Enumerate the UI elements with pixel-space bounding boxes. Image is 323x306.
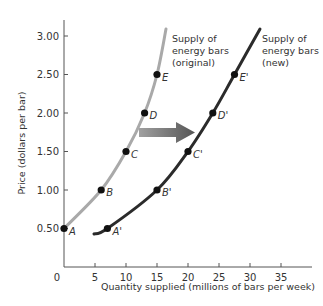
data-point-label: C [131, 149, 138, 160]
x-axis-ticks: 05101520253035 [54, 263, 288, 283]
curve-title-line: Supply of [172, 33, 217, 44]
data-point-marker [184, 148, 191, 155]
curve-title-line: (new) [262, 57, 289, 68]
data-point-label: C' [193, 149, 203, 160]
data-point-label: A [68, 226, 76, 237]
data-point-label: D' [218, 110, 228, 121]
arrow-right-icon [139, 122, 195, 143]
data-point-label: A' [111, 226, 122, 237]
data-point-marker [209, 109, 216, 116]
data-point-label: D [150, 110, 158, 121]
data-point-marker [60, 225, 67, 232]
y-tick-label: 3.00 [37, 31, 59, 42]
data-point-marker [122, 148, 129, 155]
y-tick-label: 2.50 [37, 69, 59, 80]
y-tick-label: 1.00 [37, 185, 59, 196]
data-point-label: B [106, 187, 113, 198]
x-tick-label: 5 [92, 272, 98, 283]
y-tick-label: 0.50 [37, 223, 59, 234]
data-point-marker [98, 186, 105, 193]
data-point-label: E [162, 72, 169, 83]
data-point-marker [141, 109, 148, 116]
data-point-label: E' [240, 72, 249, 83]
y-tick-label: 1.50 [37, 146, 59, 157]
y-axis-title: Price (dollars per bar) [16, 92, 27, 195]
curve-title-line: energy bars [172, 45, 229, 56]
data-point-marker [153, 186, 160, 193]
y-axis-ticks: 0.501.001.502.002.503.00 [37, 31, 68, 235]
curve-title-line: Supply of [262, 33, 307, 44]
curve-title-line: (original) [172, 57, 215, 68]
data-point-marker [104, 225, 111, 232]
curve-title-line: energy bars [262, 45, 319, 56]
data-point-label: B' [162, 187, 172, 198]
x-tick-label: 0 [54, 272, 60, 283]
y-tick-label: 2.00 [37, 108, 59, 119]
x-axis-title: Quantity supplied (millions of bars per … [101, 281, 315, 292]
supply-shift-chart: 05101520253035 0.501.001.502.002.503.00 … [0, 0, 323, 306]
data-point-marker [231, 71, 238, 78]
supply-shift-arrow [139, 122, 195, 143]
data-point-marker [153, 71, 160, 78]
chart-canvas: 05101520253035 0.501.001.502.002.503.00 … [0, 0, 323, 306]
